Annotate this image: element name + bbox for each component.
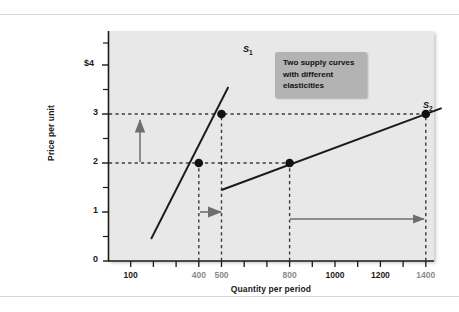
callout-line-2: with different	[283, 69, 360, 81]
y-tick-label-2: 2	[72, 156, 98, 166]
x-tick-label-1200: 1200	[358, 270, 402, 280]
y-tick-label-3: 3	[72, 107, 98, 117]
y-tick-label-1: 1	[72, 205, 98, 215]
guide-lines	[109, 114, 426, 261]
x-axis-title: Quantity per period	[108, 284, 434, 294]
callout-line-1: Two supply curves	[283, 57, 360, 69]
curve-label-s1-subscript: 1	[249, 49, 253, 56]
supply-elasticity-figure: 0 1 2 3 $4 100 400 500 800 1000 1200 140…	[0, 0, 459, 312]
curve-label-s2-subscript: 2	[429, 105, 433, 112]
y-axis-title: Price per unit	[46, 73, 56, 193]
x-tick-label-500: 500	[200, 270, 244, 280]
y-tick-label-0: 0	[72, 254, 98, 264]
x-axis-ticks	[131, 261, 426, 267]
y-axis-ticks	[102, 43, 108, 261]
x-tick-label-800: 800	[268, 270, 312, 280]
callout-box: Two supply curves with different elastic…	[275, 52, 367, 98]
x-tick-label-1000: 1000	[313, 270, 357, 280]
plot-canvas	[0, 0, 459, 312]
x-tick-label-1400: 1400	[404, 270, 448, 280]
callout-line-3: elasticities	[283, 80, 360, 92]
curve-label-s1: S1	[243, 44, 253, 56]
supply-curve-s2	[222, 108, 442, 190]
y-tick-label-4: $4	[68, 58, 94, 68]
curve-label-s2: S2	[423, 100, 433, 112]
x-tick-label-100: 100	[109, 270, 153, 280]
